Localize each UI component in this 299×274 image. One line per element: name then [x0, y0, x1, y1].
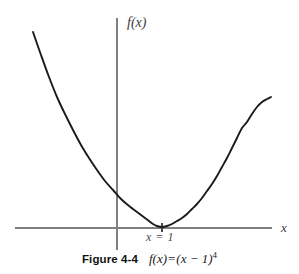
x-axis-label: x — [281, 221, 287, 234]
formula-exponent: 4 — [213, 250, 218, 260]
caption-figure-number: Figure 4-4 — [82, 253, 138, 265]
formula-base: (x − 1) — [176, 251, 212, 266]
caption-formula: f(x)=(x − 1)4 — [149, 251, 217, 266]
figure-container: f(x) x x = 1 Figure 4-4 f(x)=(x − 1)4 — [0, 0, 299, 274]
formula-equals: = — [167, 251, 176, 266]
vertex-annotation-label: x = 1 — [146, 231, 174, 243]
formula-lhs: f(x) — [149, 251, 167, 266]
y-axis-label: f(x) — [127, 16, 146, 30]
function-curve — [33, 32, 271, 227]
figure-caption: Figure 4-4 f(x)=(x − 1)4 — [0, 249, 299, 267]
